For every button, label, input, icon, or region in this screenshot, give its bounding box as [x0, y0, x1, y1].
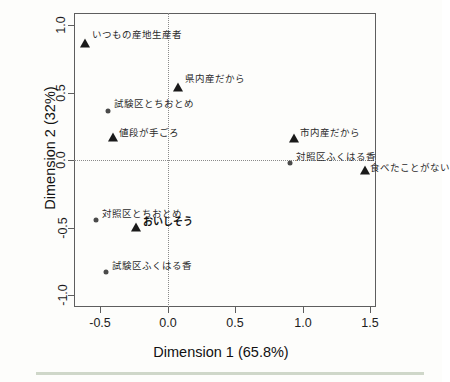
- y-tick-label: -1.0: [56, 284, 70, 306]
- y-tick-mark: [68, 160, 74, 161]
- data-point-label: 試験区ふくはる香: [112, 261, 192, 271]
- data-point-triangle: [360, 166, 370, 175]
- y-tick-mark: [68, 93, 74, 94]
- data-point-label: 市内産だから: [300, 128, 360, 138]
- data-point-label: いつもの産地生産者: [92, 30, 182, 40]
- data-point-triangle: [289, 134, 299, 143]
- data-point-circle: [94, 218, 99, 223]
- data-point-label: 対照区ふくはる香: [296, 152, 376, 162]
- data-point-label: 値段が手ごろ: [119, 128, 179, 138]
- data-point-circle: [288, 161, 293, 166]
- x-tick-mark: [235, 307, 236, 313]
- data-point-triangle: [108, 133, 118, 142]
- x-tick-label: -0.5: [89, 316, 111, 330]
- data-point-label: おいしそう: [143, 217, 193, 227]
- y-axis-title: Dimension 2 (32%): [42, 28, 58, 268]
- x-tick-label: 0.5: [226, 316, 243, 330]
- data-point-triangle: [131, 223, 141, 232]
- x-tick-mark: [100, 307, 101, 313]
- x-tick-label: 0.0: [159, 316, 176, 330]
- x-axis-title: Dimension 1 (65.8%): [0, 344, 442, 360]
- data-point-label: 県内産だから: [185, 74, 245, 84]
- data-point-circle: [106, 109, 111, 114]
- x-tick-mark: [370, 307, 371, 313]
- x-tick-label: 1.0: [294, 316, 311, 330]
- x-tick-mark: [168, 307, 169, 313]
- data-point-triangle: [80, 39, 90, 48]
- data-point-triangle: [173, 83, 183, 92]
- data-point-label: 食べたことがない: [370, 163, 450, 173]
- data-point-label: 試験区とちおとめ: [114, 99, 194, 109]
- data-point-circle: [104, 270, 109, 275]
- y-tick-mark: [68, 25, 74, 26]
- footer-rule: [36, 372, 424, 375]
- x-tick-label: 1.5: [361, 316, 378, 330]
- x-tick-mark: [303, 307, 304, 313]
